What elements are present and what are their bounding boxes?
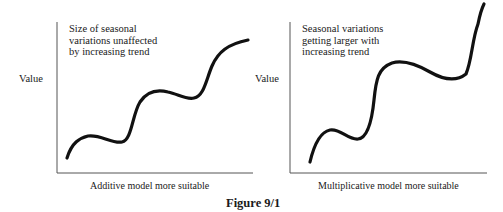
right-series-line — [310, 4, 484, 162]
left-axes — [57, 22, 253, 173]
chart-graphics — [0, 0, 503, 212]
left-series-line — [67, 40, 248, 158]
right-axes — [290, 22, 487, 173]
